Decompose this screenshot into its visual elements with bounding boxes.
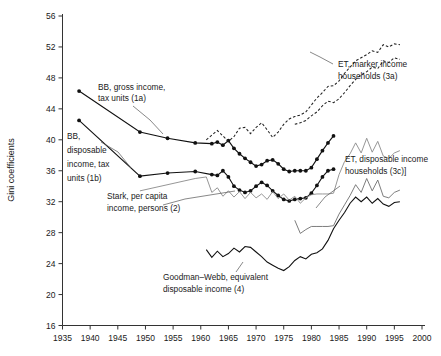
annotation-2-line2: income, persons (2) — [107, 203, 181, 213]
annotation-1a-line2: tax units (1a) — [98, 93, 146, 103]
x-tick-label: 1955 — [164, 333, 183, 343]
annotation-3c-line1: ET, disposable income — [345, 154, 428, 164]
gini-coefficients-chart: Gini coefficients 1620242832364044485256… — [0, 0, 441, 356]
y-tick-label: 36 — [46, 166, 56, 176]
data-point — [249, 160, 253, 164]
data-point — [221, 169, 225, 173]
x-tick-label: 1975 — [274, 333, 293, 343]
data-point — [243, 191, 247, 195]
y-axis-title: Gini coefficients — [6, 138, 16, 202]
data-point — [326, 141, 330, 145]
x-tick-label: 1970 — [247, 333, 266, 343]
data-point — [265, 159, 269, 163]
data-point — [254, 164, 258, 168]
annotation-1b-line4: units (1b) — [67, 173, 102, 183]
y-tick-label: 28 — [46, 228, 56, 238]
annotation-1b-line3: income, tax — [67, 159, 110, 169]
y-tick-label: 40 — [46, 135, 56, 145]
y-tick-label: 32 — [46, 197, 56, 207]
y-tick-label: 24 — [46, 259, 56, 269]
annotation-2-line1: Stark, per capita — [107, 191, 168, 201]
data-point — [287, 170, 291, 174]
data-point — [215, 140, 219, 144]
annotation-4-line2: disposable income (4) — [163, 284, 244, 294]
data-point — [321, 175, 325, 179]
data-point — [332, 134, 336, 138]
y-tick-label: 56 — [46, 11, 56, 21]
data-point — [243, 156, 247, 160]
annotation-1a-line1: BB, gross income, — [98, 82, 165, 92]
data-point — [315, 157, 319, 161]
data-point — [215, 173, 219, 177]
data-point — [238, 152, 242, 156]
x-tick-label: 1960 — [191, 333, 210, 343]
data-point — [221, 143, 225, 147]
x-tick-label: 1950 — [136, 333, 155, 343]
data-point — [265, 184, 269, 188]
data-point — [77, 119, 81, 123]
x-tick-label: 1985 — [330, 333, 349, 343]
data-point — [232, 146, 236, 150]
x-tick-label: 2000 — [413, 333, 432, 343]
x-tick-label: 1990 — [357, 333, 376, 343]
x-tick-label: 1980 — [302, 333, 321, 343]
data-point — [304, 169, 308, 173]
y-tick-label: 20 — [46, 290, 56, 300]
data-point — [232, 184, 236, 188]
data-point — [193, 170, 197, 174]
data-point — [227, 175, 231, 179]
annotation-3a-line1: ET, marker income — [338, 59, 408, 69]
data-point — [282, 167, 286, 171]
annotation-3c-line2: households (3c)] — [345, 166, 406, 176]
data-point — [166, 136, 170, 140]
data-point — [77, 89, 81, 93]
y-tick-label: 16 — [46, 321, 56, 331]
data-point — [254, 184, 258, 188]
data-point — [321, 149, 325, 153]
x-tick-label: 1945 — [108, 333, 127, 343]
annotation-3a-line2: households (3a) — [338, 71, 398, 81]
x-tick-label: 1940 — [81, 333, 100, 343]
annotation-1b-line2: disposable — [67, 145, 107, 155]
annotation-1b-line1: BB, — [67, 131, 80, 141]
y-tick-label: 48 — [46, 73, 56, 83]
data-point — [309, 166, 313, 170]
data-point — [210, 142, 214, 146]
data-point — [298, 169, 302, 173]
x-tick-label: 1965 — [219, 333, 238, 343]
y-tick-label: 52 — [46, 42, 56, 52]
data-point — [210, 173, 214, 177]
data-point — [293, 169, 297, 173]
data-point — [315, 184, 319, 188]
data-point — [260, 180, 264, 184]
annotation-4-line1: Goodman–Webb, equivalent — [163, 272, 269, 282]
x-tick-label: 1935 — [53, 333, 72, 343]
data-point — [138, 130, 142, 134]
y-tick-label: 44 — [46, 104, 56, 114]
data-point — [326, 169, 330, 173]
x-tick-label: 1995 — [385, 333, 404, 343]
data-point — [138, 174, 142, 178]
data-point — [332, 167, 336, 171]
chart-svg: Gini coefficients 1620242832364044485256… — [0, 0, 441, 356]
data-point — [271, 158, 275, 162]
data-point — [193, 141, 197, 145]
data-point — [298, 197, 302, 201]
data-point — [282, 197, 286, 201]
data-point — [166, 171, 170, 175]
data-point — [276, 162, 280, 166]
data-point — [260, 163, 264, 167]
